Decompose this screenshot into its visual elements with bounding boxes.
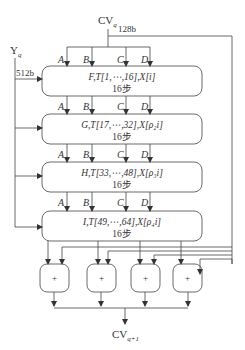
svg-text:C: C [117, 197, 124, 208]
md5-compression-diagram: CVq 128b Yq 512b A B C D A B C D A B C D… [0, 0, 245, 350]
round-2-steps: 16步 [112, 132, 132, 142]
svg-text:D: D [140, 101, 149, 112]
cv-q1-label: CVq+1 [112, 328, 139, 343]
cv-q-label: CVq [98, 14, 117, 29]
svg-text:B: B [83, 101, 89, 112]
round-3-label: H,T[33,⋯,48],X[ρ₃i] [80, 168, 163, 178]
round-1-label: F,T[1,⋯,16],X[i] [88, 72, 156, 82]
round-2-label: G,T[17,⋯,32],X[ρ₂i] [81, 120, 163, 130]
yq-width-label: 512b [16, 68, 35, 78]
yq-label: Yq [10, 44, 22, 59]
svg-text:A: A [57, 101, 65, 112]
svg-text:D: D [140, 54, 149, 65]
svg-text:C: C [117, 54, 124, 65]
adder-4-symbol: + [185, 273, 190, 283]
round-1-steps: 16步 [112, 84, 132, 94]
svg-text:A: A [57, 197, 65, 208]
svg-text:D: D [140, 197, 149, 208]
adder-2-symbol: + [99, 273, 104, 283]
svg-text:B: B [83, 149, 89, 160]
svg-text:C: C [117, 101, 124, 112]
round-4-label: I,T[49,⋯,64],X[ρ₄i] [82, 217, 161, 227]
cv-width-label: 128b [118, 24, 137, 34]
adder-1-symbol: + [52, 273, 57, 283]
svg-text:B: B [83, 197, 89, 208]
round-3-steps: 16步 [112, 180, 132, 190]
svg-text:B: B [83, 54, 89, 65]
svg-text:A: A [57, 149, 65, 160]
adder-3-symbol: + [143, 273, 148, 283]
svg-text:A: A [57, 54, 65, 65]
svg-text:C: C [117, 149, 124, 160]
svg-text:D: D [140, 149, 149, 160]
round-4-steps: 16步 [112, 229, 132, 239]
